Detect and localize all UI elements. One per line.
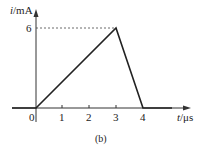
x-tick-label-0: 0 — [29, 112, 35, 123]
x-axis-label: t/μs — [177, 112, 193, 123]
x-axis-arrow-icon — [183, 106, 191, 111]
x-tick-label-2: 2 — [86, 112, 92, 123]
x-tick-label-1: 1 — [59, 112, 65, 123]
x-tick-label-4: 4 — [140, 112, 146, 123]
figure-caption: (b) — [95, 134, 107, 144]
x-tick-label-3: 3 — [113, 112, 119, 123]
y-axis-arrow-icon — [34, 9, 39, 17]
y-tick-label-6: 6 — [26, 23, 32, 34]
y-axis-label-unit: /mA — [13, 4, 33, 16]
y-axis-label: i/mA — [10, 5, 33, 16]
x-axis-label-unit: /μs — [180, 111, 193, 123]
